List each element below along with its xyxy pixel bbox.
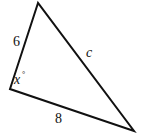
angle-x-label: x	[13, 72, 21, 87]
degree-symbol: °	[22, 70, 25, 79]
side-bottom-label: 8	[55, 111, 62, 126]
side-left-label: 6	[13, 34, 20, 49]
triangle-diagram: 6 c 8 x °	[0, 0, 144, 140]
side-c-label: c	[86, 45, 93, 60]
triangle	[10, 3, 134, 131]
